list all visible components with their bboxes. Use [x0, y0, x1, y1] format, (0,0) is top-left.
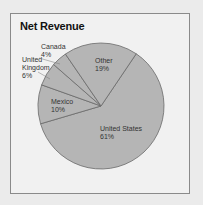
- label-other-value: 19%: [95, 65, 109, 72]
- label-mexico-name: Mexico: [51, 98, 73, 105]
- pie-chart: United States 61% Mexico 10% United King…: [0, 0, 203, 205]
- label-uk-name-2: Kingdom: [22, 64, 50, 72]
- label-us-value: 61%: [100, 133, 114, 140]
- label-canada-value: 4%: [41, 51, 51, 58]
- label-uk-value: 6%: [22, 72, 32, 79]
- label-canada-name: Canada: [41, 43, 66, 50]
- label-uk-name-1: United: [22, 56, 42, 63]
- label-us-name: United States: [100, 125, 143, 132]
- label-other-name: Other: [95, 57, 113, 64]
- label-mexico-value: 10%: [51, 106, 65, 113]
